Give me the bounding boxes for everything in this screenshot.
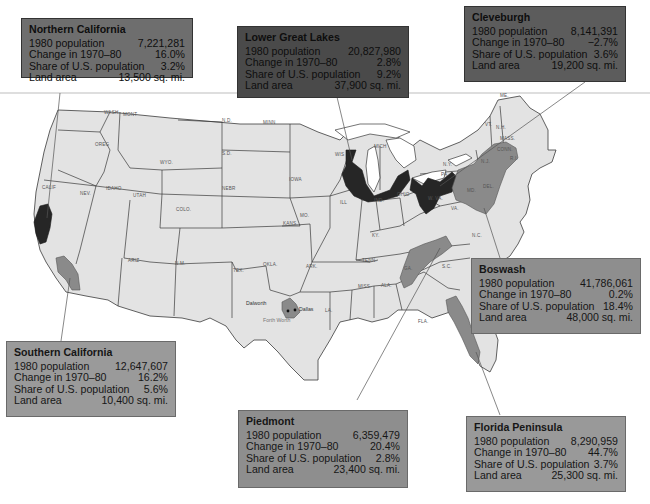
city-label-dallas: Dallas (299, 306, 314, 312)
region-title: Piedmont (246, 416, 400, 427)
svg-text:LA.: LA. (325, 308, 333, 313)
city-label-fort-worth: Forth Worth (263, 317, 290, 323)
stat-label: Change in 1970–80 (472, 37, 564, 48)
stat-value: 19,200 sq. mi. (551, 60, 618, 71)
stat-label: Change in 1970–80 (246, 441, 338, 452)
stat-value: 0.2% (609, 289, 633, 300)
svg-text:UTAH: UTAH (133, 193, 146, 198)
svg-text:N.D.: N.D. (222, 118, 232, 123)
svg-text:OHIO: OHIO (397, 192, 410, 197)
svg-text:MISS.: MISS. (358, 284, 372, 289)
stat-row: Land area37,900 sq. mi. (245, 80, 401, 91)
stat-label: Land area (472, 60, 520, 71)
info-box-southern-california: Southern California 1980 population12,64… (6, 341, 176, 417)
svg-text:ARK.: ARK. (306, 264, 318, 269)
stat-row: Change in 1970–8020.4% (246, 441, 400, 452)
stat-value: 13,500 sq. mi. (118, 72, 185, 83)
svg-text:R.I.: R.I. (510, 156, 518, 161)
stat-value: 20.4% (370, 441, 400, 452)
stat-value: 37,900 sq. mi. (334, 80, 401, 91)
svg-text:COLO.: COLO. (176, 207, 191, 212)
svg-text:MD.: MD. (467, 188, 476, 193)
svg-text:N.M.: N.M. (175, 261, 186, 266)
stat-label: Land area (245, 80, 293, 91)
dallas-dot (294, 309, 297, 312)
stat-label: Land area (474, 470, 522, 481)
city-label-dalworth: Dalworth (246, 300, 267, 306)
svg-text:WYO.: WYO. (160, 160, 173, 165)
stat-value: 2.8% (377, 57, 401, 68)
stat-label: Land area (14, 395, 62, 406)
svg-text:CONN.: CONN. (497, 147, 513, 152)
svg-text:CALIF: CALIF (42, 185, 56, 190)
stat-label: Change in 1970–80 (14, 372, 106, 383)
svg-text:MO.: MO. (300, 213, 309, 218)
svg-text:GA.: GA. (404, 266, 413, 271)
svg-text:IDAHO: IDAHO (106, 186, 122, 191)
stat-row: Land area25,300 sq. mi. (474, 470, 618, 481)
stat-row: Land area23,400 sq. mi. (246, 464, 400, 475)
region-title: Northern California (29, 24, 185, 35)
region-title: Lower Great Lakes (245, 32, 401, 43)
svg-text:S.C.: S.C. (442, 264, 452, 269)
region-title: Florida Peninsula (474, 422, 618, 433)
svg-text:N.Y.: N.Y. (443, 162, 452, 167)
stat-value: −2.7% (588, 37, 618, 48)
svg-text:IOWA: IOWA (289, 177, 303, 182)
info-box-florida-peninsula: Florida Peninsula 1980 population8,290,9… (466, 416, 626, 492)
info-box-lower-great-lakes: Lower Great Lakes 1980 population20,827,… (237, 26, 409, 98)
svg-text:WASH: WASH (104, 110, 118, 115)
stat-label: Land area (246, 464, 294, 475)
stat-row: Land area19,200 sq. mi. (472, 60, 618, 71)
svg-text:KY.: KY. (372, 233, 379, 238)
svg-text:KANS.: KANS. (283, 221, 298, 226)
svg-text:VT.: VT. (485, 122, 492, 127)
svg-text:NEV.: NEV. (80, 191, 91, 196)
svg-text:N.C.: N.C. (472, 233, 482, 238)
svg-text:TENN.: TENN. (362, 258, 377, 263)
stat-row: Change in 1970–800.2% (479, 289, 633, 300)
svg-text:ME.: ME. (500, 93, 509, 98)
svg-text:MONT: MONT (123, 112, 137, 117)
region-title: Cleveburgh (472, 12, 618, 23)
svg-text:MASS.: MASS. (500, 136, 515, 141)
stat-row: Change in 1970–8016.0% (29, 49, 185, 60)
stat-label: Change in 1970–80 (474, 447, 566, 458)
stat-label: Change in 1970–80 (479, 289, 571, 300)
stat-row: Land area48,000 sq. mi. (479, 312, 633, 323)
svg-text:OKLA.: OKLA. (263, 262, 278, 267)
stat-row: Change in 1970–8044.7% (474, 447, 618, 458)
stat-label: Change in 1970–80 (245, 57, 337, 68)
svg-text:FLA.: FLA. (418, 319, 429, 324)
svg-text:OREG: OREG (95, 142, 110, 147)
svg-text:MICH: MICH (374, 144, 387, 149)
region-title: Southern California (14, 347, 168, 358)
svg-text:IND.: IND. (374, 198, 384, 203)
stat-value: 48,000 sq. mi. (566, 312, 633, 323)
svg-text:PA.: PA. (441, 172, 449, 177)
svg-text:ARIZ: ARIZ (128, 258, 139, 263)
svg-text:MINN: MINN (263, 120, 276, 125)
info-box-cleveburgh: Cleveburgh 1980 population8,141,391 Chan… (464, 6, 626, 82)
svg-text:S.D.: S.D. (222, 151, 232, 156)
stat-value: 16.0% (155, 49, 185, 60)
stat-value: 10,400 sq. mi. (101, 395, 168, 406)
stat-label: Land area (29, 72, 77, 83)
stat-row: Change in 1970–8016.2% (14, 372, 168, 383)
svg-text:N.J.: N.J. (481, 159, 490, 164)
stat-value: 23,400 sq. mi. (333, 464, 400, 475)
region-title: Boswash (479, 264, 633, 275)
stat-row: Change in 1970–80−2.7% (472, 37, 618, 48)
svg-text:TEX.: TEX. (233, 268, 244, 273)
svg-text:N.H.: N.H. (496, 125, 506, 130)
info-box-northern-california: Northern California 1980 population7,221… (21, 18, 193, 78)
stat-row: Change in 1970–802.8% (245, 57, 401, 68)
stat-label: Change in 1970–80 (29, 49, 121, 60)
fort-worth-dot (287, 310, 290, 313)
stat-row: Land area10,400 sq. mi. (14, 395, 168, 406)
stat-value: 25,300 sq. mi. (551, 470, 618, 481)
us-landmass (34, 96, 556, 380)
stat-row: Land area13,500 sq. mi. (29, 72, 185, 83)
stat-value: 16.2% (138, 372, 168, 383)
svg-text:ALA.: ALA. (381, 283, 392, 288)
